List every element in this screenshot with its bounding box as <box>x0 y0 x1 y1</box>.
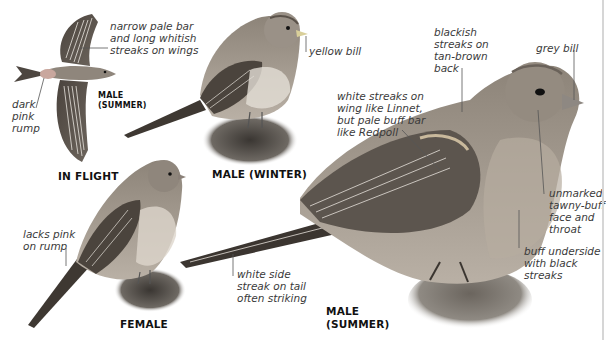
annotation-summer-bill: grey bill <box>536 42 578 54</box>
male-summer-caption: MALE (SUMMER) <box>326 305 389 331</box>
flight-sex-season-caption: MALE (SUMMER) <box>98 91 147 111</box>
female-caption: FEMALE <box>120 318 168 331</box>
annotation-summer-wing: white streaks on wing like Linnet, but p… <box>337 90 425 138</box>
annotation-flight-wings: narrow pale bar and long whitish streaks… <box>110 20 198 56</box>
annotation-summer-back: blackish streaks on tan-brown back <box>434 26 489 74</box>
annotation-summer-face: unmarked tawny-buff face and throat <box>549 187 605 235</box>
annotation-flight-rump: dark pink rump <box>12 98 40 134</box>
annotation-winter-bill: yellow bill <box>309 45 361 57</box>
annotation-summer-tail: white side streak on tail often striking <box>237 268 307 304</box>
annotation-summer-underside: buff underside with black streaks <box>524 245 601 281</box>
flight-bird <box>14 14 116 162</box>
identification-plate: MALE (SUMMER) IN FLIGHT MALE (WINTER) FE… <box>0 0 606 340</box>
in-flight-caption: IN FLIGHT <box>58 170 119 183</box>
male-winter-caption: MALE (WINTER) <box>212 168 307 181</box>
annotation-female-rump: lacks pink on rump <box>23 228 75 252</box>
page-edge-rule <box>602 0 604 340</box>
